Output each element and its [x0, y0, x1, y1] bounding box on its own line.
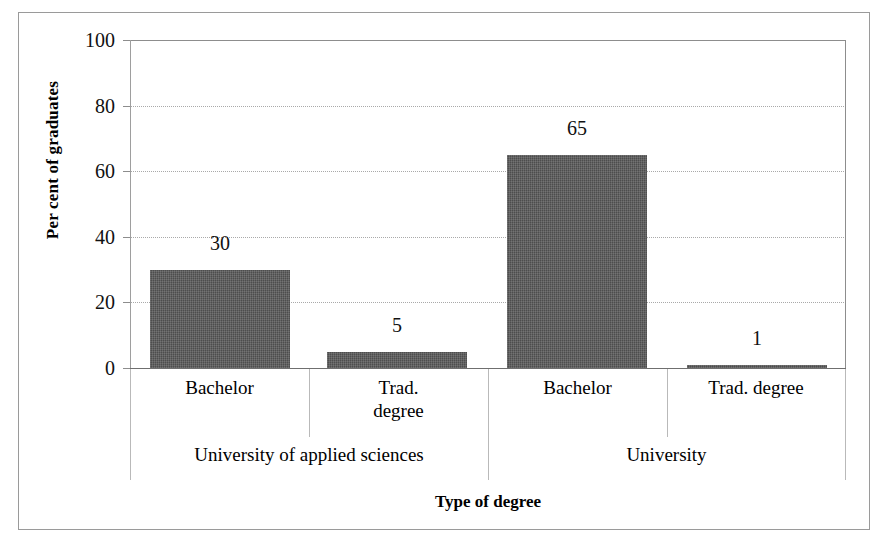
x-axis-title: Type of degree [130, 492, 846, 512]
gridline-60 [130, 171, 846, 172]
category-label-line1: Trad. [379, 376, 419, 399]
group-label-applied-sciences: University of applied sciences [130, 439, 488, 479]
cat-divider-right [845, 369, 846, 480]
group-label-university: University [488, 439, 845, 479]
category-label-univ-trad: Trad. degree [667, 371, 845, 435]
category-label-line1: Trad. degree [708, 376, 803, 399]
gridline-80 [130, 106, 846, 107]
plot-right-line [845, 40, 846, 369]
bar-label-univ-bachelor: 65 [507, 118, 647, 138]
category-label-line1: Bachelor [185, 376, 254, 399]
y-tick-label-80: 80 [55, 96, 115, 116]
y-tick-label-40: 40 [55, 227, 115, 247]
category-label-uas-bachelor: Bachelor [130, 371, 309, 435]
y-axis-line [130, 40, 131, 369]
y-tick-label-20: 20 [55, 292, 115, 312]
y-tick-label-60: 60 [55, 161, 115, 181]
bar-label-uas-trad: 5 [327, 315, 467, 335]
category-label-uas-trad: Trad. degree [309, 371, 488, 435]
plot-top-line [130, 40, 846, 41]
y-axis-title: Per cent of graduates [43, 50, 63, 270]
category-label-line2: degree [373, 399, 424, 422]
bar-uas-trad [327, 352, 467, 368]
y-tick-label-0: 0 [55, 358, 115, 378]
chart-figure: 100 80 60 40 20 0 30 5 65 1 Per cent of … [0, 0, 894, 554]
category-label-univ-bachelor: Bachelor [488, 371, 667, 435]
y-tick-label-100: 100 [55, 30, 115, 50]
bar-univ-trad [687, 365, 827, 368]
bar-univ-bachelor [507, 155, 647, 368]
bar-label-univ-trad: 1 [687, 328, 827, 348]
category-label-table: Bachelor Trad. degree Bachelor Trad. deg… [130, 369, 846, 480]
bar-label-uas-bachelor: 30 [150, 233, 290, 253]
category-label-line1: Bachelor [543, 376, 612, 399]
bar-uas-bachelor [150, 270, 290, 368]
